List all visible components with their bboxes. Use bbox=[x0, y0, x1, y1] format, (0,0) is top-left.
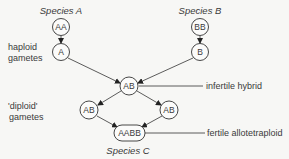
node-aa: AA bbox=[53, 19, 70, 36]
svg-text:B: B bbox=[197, 47, 203, 57]
fertile-allotetraploid-label: fertile allotetraploid bbox=[207, 128, 283, 138]
infertile-hybrid-label: infertile hybrid bbox=[206, 81, 262, 91]
node-gamete-ab-right: AB bbox=[160, 101, 178, 119]
svg-text:AABB: AABB bbox=[118, 128, 141, 138]
arrow-hybrid-to-left bbox=[98, 91, 121, 105]
arrow-right-to-aabb bbox=[142, 116, 162, 127]
haploid-label-line2: gametes bbox=[8, 53, 43, 63]
svg-text:AB: AB bbox=[123, 81, 135, 91]
svg-text:A: A bbox=[58, 47, 64, 57]
species-c-label: Species C bbox=[106, 145, 149, 156]
node-hybrid-ab: AB bbox=[120, 77, 138, 95]
node-b: B bbox=[192, 44, 209, 61]
diploid-label-line1: 'diploid' bbox=[8, 101, 38, 111]
species-a-label: Species A bbox=[40, 5, 82, 16]
node-a: A bbox=[53, 44, 70, 61]
node-aabb: AABB bbox=[114, 125, 145, 141]
allopolyploidy-diagram: Species A Species B Species C AA A BB B … bbox=[0, 0, 289, 159]
arrow-a-to-hybrid bbox=[68, 58, 120, 83]
svg-text:AB: AB bbox=[163, 105, 175, 115]
svg-text:AB: AB bbox=[83, 105, 95, 115]
haploid-label-line1: haploid bbox=[8, 42, 37, 52]
arrow-left-to-aabb bbox=[97, 116, 117, 127]
diploid-label-line2: gametes bbox=[9, 112, 44, 122]
arrow-hybrid-to-right bbox=[137, 91, 161, 105]
species-b-label: Species B bbox=[179, 5, 222, 16]
svg-text:BB: BB bbox=[194, 22, 206, 32]
node-gamete-ab-left: AB bbox=[80, 101, 98, 119]
node-bb: BB bbox=[192, 19, 209, 36]
arrow-b-to-hybrid bbox=[138, 58, 193, 83]
svg-text:AA: AA bbox=[55, 22, 67, 32]
diagram-canvas: Species A Species B Species C AA A BB B … bbox=[0, 0, 289, 159]
